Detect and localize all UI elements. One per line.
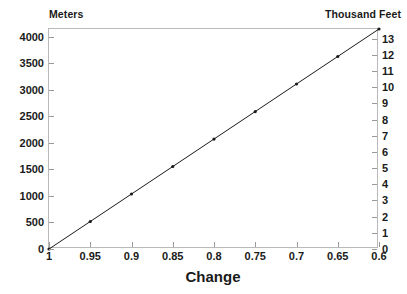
data-point-marker xyxy=(89,220,92,223)
y-right-tick-label: 12 xyxy=(382,49,394,60)
y-left-tick-mark xyxy=(49,37,54,38)
x-tick-label: 0.65 xyxy=(327,251,348,262)
y-left-tick-label: 2000 xyxy=(20,137,44,148)
y-right-tick-label: 13 xyxy=(382,33,394,44)
y-left-tick-label: 1000 xyxy=(20,190,44,201)
data-point-marker xyxy=(254,110,257,113)
y-left-tick-mark xyxy=(49,222,54,223)
x-tick-mark xyxy=(255,242,256,247)
x-tick-mark xyxy=(173,242,174,247)
y-left-tick-mark xyxy=(49,143,54,144)
y-right-tick-mark xyxy=(372,136,377,137)
x-axis-title: Change xyxy=(48,268,378,285)
y-left-tick-mark xyxy=(49,63,54,64)
y-right-tick-label: 1 xyxy=(382,227,388,238)
y-right-tick-mark xyxy=(372,103,377,104)
y-right-tick-mark xyxy=(372,71,377,72)
x-tick-label: 0.95 xyxy=(80,251,101,262)
y-right-tick-mark xyxy=(372,87,377,88)
y-left-tick-mark xyxy=(49,196,54,197)
y-left-tick-label: 0 xyxy=(38,244,44,255)
x-tick-mark xyxy=(297,242,298,247)
data-point-marker xyxy=(295,82,298,85)
x-tick-mark xyxy=(132,242,133,247)
y-right-tick-mark xyxy=(372,120,377,121)
y-right-tick-mark xyxy=(372,152,377,153)
x-tick-label: 0.9 xyxy=(124,251,139,262)
data-point-marker xyxy=(171,165,174,168)
y-left-tick-label: 3500 xyxy=(20,58,44,69)
x-tick-mark xyxy=(214,242,215,247)
y-right-tick-label: 2 xyxy=(382,211,388,222)
y-left-tick-label: 500 xyxy=(26,217,44,228)
data-layer xyxy=(49,29,379,249)
y-right-tick-label: 11 xyxy=(382,66,394,77)
x-tick-label: 0.75 xyxy=(245,251,266,262)
left-axis-unit-caption: Meters xyxy=(49,8,83,20)
y-right-tick-label: 7 xyxy=(382,130,388,141)
y-left-tick-mark xyxy=(49,90,54,91)
y-left-tick-label: 2500 xyxy=(20,111,44,122)
x-tick-mark xyxy=(379,242,380,247)
y-left-tick-mark xyxy=(49,169,54,170)
y-left-tick-label: 1500 xyxy=(20,164,44,175)
x-tick-label: 0.8 xyxy=(206,251,221,262)
y-right-tick-label: 4 xyxy=(382,179,388,190)
y-right-tick-mark xyxy=(372,200,377,201)
x-tick-label: 0.85 xyxy=(162,251,183,262)
y-right-tick-label: 9 xyxy=(382,98,388,109)
x-tick-mark xyxy=(338,242,339,247)
y-right-tick-label: 8 xyxy=(382,114,388,125)
y-right-tick-mark xyxy=(372,233,377,234)
y-right-tick-label: 5 xyxy=(382,163,388,174)
x-tick-mark xyxy=(49,242,50,247)
y-right-tick-label: 10 xyxy=(382,82,394,93)
chart-figure: Meters Thousand Feet 0500100015002000250… xyxy=(0,0,407,294)
data-point-marker xyxy=(212,137,215,140)
y-right-tick-mark xyxy=(372,168,377,169)
y-right-tick-label: 3 xyxy=(382,195,388,206)
x-tick-mark xyxy=(90,242,91,247)
y-right-tick-mark xyxy=(372,217,377,218)
x-tick-label: 0.6 xyxy=(371,251,386,262)
data-point-marker xyxy=(377,27,380,30)
y-right-tick-mark xyxy=(372,55,377,56)
data-point-marker xyxy=(130,192,133,195)
y-left-tick-label: 3000 xyxy=(20,84,44,95)
x-tick-label: 1 xyxy=(46,251,52,262)
y-right-tick-mark xyxy=(372,184,377,185)
y-left-tick-mark xyxy=(49,116,54,117)
y-left-tick-label: 4000 xyxy=(20,31,44,42)
x-tick-label: 0.7 xyxy=(289,251,304,262)
y-right-tick-mark xyxy=(372,39,377,40)
data-point-marker xyxy=(336,55,339,58)
right-axis-unit-caption: Thousand Feet xyxy=(325,8,401,20)
plot-area: 05001000150020002500300035004000 0123456… xyxy=(48,28,378,248)
y-right-tick-label: 6 xyxy=(382,146,388,157)
